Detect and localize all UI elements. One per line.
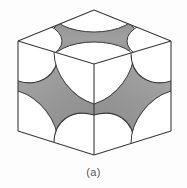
figure-caption: (a) (0, 165, 187, 179)
figure-container: (a) (0, 0, 187, 188)
fcc-unit-cell-diagram (0, 0, 187, 188)
